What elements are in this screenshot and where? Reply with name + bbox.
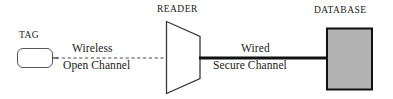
reader-label: READER xyxy=(157,5,198,15)
rfid-channel-diagram: TAG READER DATABASE Wireless Open Channe… xyxy=(0,0,393,99)
wireless-channel-label-top: Wireless xyxy=(72,43,113,55)
wired-channel-label-bottom: Secure Channel xyxy=(213,60,287,72)
tag-label: TAG xyxy=(19,31,39,41)
reader-shape xyxy=(167,22,201,94)
tag-shape xyxy=(18,49,53,68)
database-label: DATABASE xyxy=(314,6,366,16)
wireless-channel-label-bottom: Open Channel xyxy=(63,60,130,72)
database-shape xyxy=(327,29,372,90)
wired-channel-label-top: Wired xyxy=(241,43,270,55)
